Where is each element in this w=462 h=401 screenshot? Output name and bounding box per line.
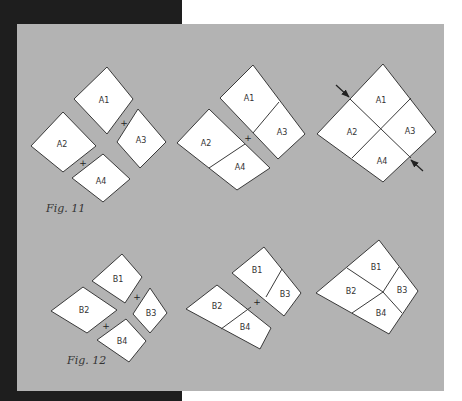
piece-label: A1 bbox=[244, 94, 255, 103]
plus-icon: + bbox=[253, 297, 261, 307]
step-separate-pieces: B1B3B2B4++ bbox=[51, 254, 167, 362]
piece-label: A4 bbox=[235, 163, 246, 172]
arrow-icon bbox=[336, 85, 349, 97]
step-joined-pairs: B1B3B2B4+ bbox=[186, 247, 301, 349]
figure-11: A1A3A2A4++A1A3A2A4+A1A3A2A4 bbox=[31, 64, 436, 202]
plus-icon: + bbox=[102, 321, 110, 331]
arrow-icon bbox=[411, 160, 423, 171]
piece-label: B2 bbox=[346, 287, 357, 296]
piece-label: A1 bbox=[99, 96, 110, 105]
piece-label: A2 bbox=[57, 140, 68, 149]
piece-label: A2 bbox=[201, 139, 212, 148]
piece-label: A1 bbox=[376, 96, 387, 105]
figure-caption-11: Fig. 11 bbox=[45, 202, 85, 215]
piece-label: B4 bbox=[376, 309, 387, 318]
figure-caption-12: Fig. 12 bbox=[66, 354, 106, 367]
piece-label: A3 bbox=[405, 127, 416, 136]
quilt-piecing-diagram: A1A3A2A4++A1A3A2A4+A1A3A2A4 B1B3B2B4++B1… bbox=[0, 0, 462, 401]
piece-label: B1 bbox=[252, 266, 263, 275]
figure-12: B1B3B2B4++B1B3B2B4+B1B3B2B4 bbox=[51, 240, 418, 362]
piece-label: B1 bbox=[371, 263, 382, 272]
piece-label: B3 bbox=[397, 286, 408, 295]
piece-label: B4 bbox=[117, 337, 128, 346]
step-completed-block: B1B3B2B4 bbox=[316, 240, 418, 334]
piece-label: B4 bbox=[240, 323, 251, 332]
piece-label: A4 bbox=[377, 157, 388, 166]
piece-label: A4 bbox=[96, 177, 107, 186]
step-joined-pairs: A1A3A2A4+ bbox=[177, 65, 305, 190]
plus-icon: + bbox=[133, 292, 141, 302]
piece-label: B1 bbox=[113, 275, 124, 284]
piece-label: A2 bbox=[347, 128, 358, 137]
piece-label: B3 bbox=[280, 290, 291, 299]
piece-label: B2 bbox=[79, 306, 90, 315]
piece-label: A3 bbox=[136, 136, 147, 145]
plus-icon: + bbox=[79, 158, 87, 168]
piece-label: A3 bbox=[277, 128, 288, 137]
piece-label: B3 bbox=[146, 309, 157, 318]
plus-icon: + bbox=[120, 118, 128, 128]
plus-icon: + bbox=[244, 133, 252, 143]
step-separate-pieces: A1A3A2A4++ bbox=[31, 67, 166, 202]
piece-label: B2 bbox=[212, 302, 223, 311]
step-completed-block: A1A3A2A4 bbox=[317, 64, 436, 182]
